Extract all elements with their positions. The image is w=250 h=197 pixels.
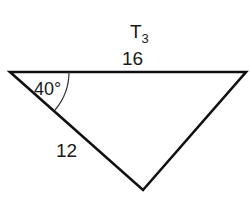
left-side-label: 12	[56, 140, 77, 161]
triangle-diagram: T3 16 40° 12	[0, 0, 250, 197]
triangle-title: T3	[130, 21, 149, 46]
top-side-label: 16	[122, 48, 143, 69]
angle-label: 40°	[34, 79, 61, 99]
